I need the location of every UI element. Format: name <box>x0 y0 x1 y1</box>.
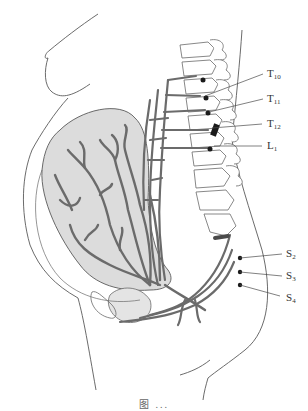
leader-s3 <box>240 272 282 276</box>
label-s3: S3 <box>286 270 296 283</box>
leader-s4 <box>240 285 280 296</box>
ganglion-dot <box>204 96 209 101</box>
label-s4: S4 <box>286 292 296 305</box>
vertebral-column <box>180 40 242 236</box>
nerve-segment <box>215 236 228 238</box>
label-t10: T10 <box>267 68 281 81</box>
ganglion-dot <box>201 78 206 83</box>
label-s2: S2 <box>286 248 296 261</box>
label-t11: T11 <box>267 93 280 106</box>
figure-caption: 图 ... <box>0 396 308 411</box>
label-t12: T12 <box>267 118 281 131</box>
leader-s2 <box>240 254 282 258</box>
ganglion-dot <box>208 147 213 152</box>
ganglion-dot <box>206 111 211 116</box>
label-l1: L1 <box>267 140 277 153</box>
